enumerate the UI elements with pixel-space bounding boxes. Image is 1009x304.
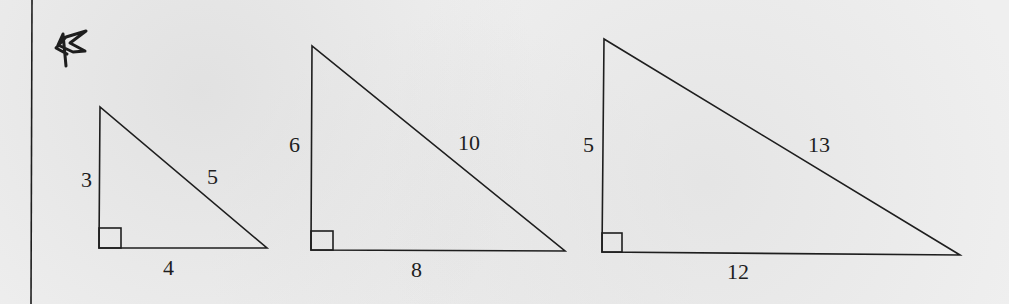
triangle-3-hypotenuse-label: 13 (808, 134, 830, 156)
star-icon (56, 31, 86, 66)
triangle-2-horizontal-leg-label: 8 (411, 259, 422, 281)
triangle-1-horizontal-leg-label: 4 (163, 257, 174, 279)
triangle-1-hypotenuse-label: 5 (207, 166, 218, 188)
right-angle-marker (602, 233, 622, 252)
triangle-3 (602, 39, 960, 255)
triangles-figure (0, 0, 1009, 304)
right-angle-marker (99, 228, 121, 248)
triangle-1-vertical-leg-label: 3 (81, 169, 92, 191)
triangle-1 (99, 107, 267, 248)
triangle-3-horizontal-leg-label: 12 (727, 261, 749, 283)
triangle-2-hypotenuse-label: 10 (458, 132, 480, 154)
margin-line (31, 0, 32, 304)
right-angle-marker (311, 231, 333, 250)
triangle-2 (311, 46, 565, 251)
triangle-2-vertical-leg-label: 6 (289, 134, 300, 156)
triangle-3-vertical-leg-label: 5 (583, 134, 594, 156)
